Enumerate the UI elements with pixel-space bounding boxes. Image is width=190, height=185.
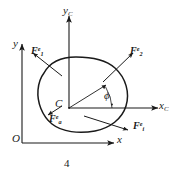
- center-of-mass-point: [68, 107, 70, 109]
- global-x-axis-label: x: [117, 134, 122, 145]
- phi-ray: [69, 85, 106, 108]
- force-i-subscript: i: [142, 125, 144, 132]
- force-2-arrow: [103, 53, 133, 82]
- body-origin-label: C: [55, 98, 62, 109]
- diagram-canvas: [0, 0, 190, 185]
- global-y-axis-label: y: [13, 38, 18, 49]
- force-1-label: Fe1: [31, 46, 44, 57]
- force-1-subscript: 1: [40, 50, 43, 57]
- body-yc-axis-label: yC: [63, 5, 72, 18]
- body-xc-axis-label: xC: [159, 100, 168, 113]
- force-a-label: Fea: [49, 114, 62, 125]
- force-2-subscript: 2: [139, 50, 142, 57]
- phi-arc-dot-lower: [111, 104, 113, 106]
- body-xc-subscript: C: [164, 105, 169, 112]
- figure-container: O x y C xC yC ϕ Fe1 Fe2 Fea Fei 4: [0, 0, 190, 185]
- figure-caption: 4: [64, 158, 70, 169]
- force-i-label: Fei: [133, 121, 144, 132]
- force-2-label: Fe2: [130, 46, 143, 57]
- body-yc-subscript: C: [68, 10, 73, 17]
- global-origin-label: O: [12, 133, 20, 144]
- force-a-subscript: a: [58, 118, 61, 125]
- phi-angle-label: ϕ: [104, 90, 110, 101]
